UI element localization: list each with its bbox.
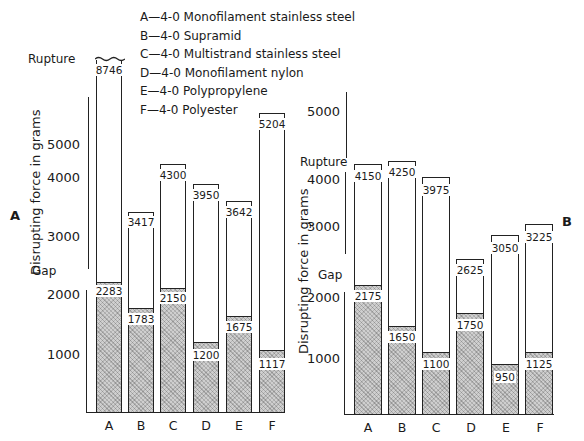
rupture-value: 4150 (354, 170, 383, 182)
wavy-break-icon (95, 56, 125, 62)
y-axis-upper-break-b (346, 92, 347, 158)
gap-segment: 1200 (193, 342, 220, 413)
gap-segment: 1750 (456, 313, 485, 415)
x-label-b: B (392, 420, 412, 435)
bar-a-right: 4150 2175 (354, 164, 382, 415)
bar-d-right: 2625 1750 (456, 259, 484, 415)
rupture-value: 3417 (127, 216, 156, 228)
gap-value: 2175 (354, 290, 383, 302)
x-label-e: E (496, 420, 516, 435)
gap-label-b: Gap (318, 268, 342, 282)
rupture-label-b: Rupture (300, 155, 347, 169)
x-label-d: D (196, 418, 216, 433)
legend-item-b: B—4-0 Supramid (140, 27, 355, 46)
bar-e-left: 3642 1675 (226, 201, 252, 413)
legend-item-c: C—4-0 Multistrand stainless steel (140, 45, 355, 64)
x-label-d: D (461, 420, 481, 435)
y-tick-5000-b: 5000 (280, 104, 340, 119)
gap-value: 2283 (95, 285, 124, 297)
gap-segment: 2175 (354, 285, 383, 415)
x-label-e: E (229, 418, 249, 433)
legend-item-a: A—4-0 Monofilament stainless steel (140, 8, 355, 27)
gap-value: 950 (494, 371, 516, 383)
legend: A—4-0 Monofilament stainless steel B—4-0… (140, 8, 355, 119)
bar-e-right: 3050 950 (491, 235, 519, 415)
gap-segment: 1650 (388, 326, 417, 415)
x-label-f: F (262, 418, 282, 433)
y-tick-1000-b: 1000 (280, 351, 340, 366)
rupture-value: 3975 (422, 184, 451, 196)
y-tick-5000-a: 5000 (20, 137, 80, 152)
rupture-value: 3950 (192, 189, 221, 201)
gap-value: 1125 (525, 358, 554, 370)
legend-item-d: D—4-0 Monofilament nylon (140, 64, 355, 83)
y-tick-4000-a: 4000 (20, 170, 80, 185)
gap-value: 1200 (192, 349, 221, 361)
rupture-value: 2625 (456, 264, 485, 276)
y-axis-lower-b (344, 292, 345, 415)
y-tick-3000-b: 3000 (280, 219, 340, 234)
y-axis-label-b: Disrupting force in grams (296, 189, 311, 354)
rupture-value: 5204 (258, 118, 287, 130)
bar-d-left: 3950 1200 (193, 184, 219, 413)
bar-c-right: 3975 1100 (422, 177, 450, 415)
y-tick-2000-b: 2000 (280, 290, 340, 305)
y-axis-lower-a (86, 290, 87, 413)
panel-label-a: A (10, 208, 20, 223)
bar-b-right: 4250 1650 (388, 161, 416, 415)
y-tick-1000-a: 1000 (20, 347, 80, 362)
y-tick-3000-a: 3000 (20, 229, 80, 244)
x-label-a: A (99, 418, 119, 433)
rupture-value: 3050 (491, 242, 520, 254)
y-tick-4000-b: 4000 (280, 172, 340, 187)
x-label-c: C (163, 418, 183, 433)
gap-segment: 1125 (525, 352, 554, 415)
gap-segment: 1675 (226, 316, 253, 413)
gap-value: 1750 (456, 319, 485, 331)
y-tick-2000-a: 2000 (20, 287, 80, 302)
gap-segment: 950 (491, 364, 520, 415)
rupture-value: 4300 (159, 169, 188, 181)
y-axis-label-a: Disrupting force in grams (28, 110, 43, 275)
gap-value: 2150 (159, 292, 188, 304)
rupture-value: 8746 (95, 64, 124, 76)
gap-value: 1100 (422, 358, 451, 370)
bar-b-left: 3417 1783 (128, 212, 154, 413)
x-label-b: B (131, 418, 151, 433)
y-axis-upper-a (88, 97, 89, 269)
gap-segment: 2283 (96, 282, 123, 413)
bar-c-left: 4300 2150 (160, 164, 186, 413)
bar-f-left: 5204 1117 (259, 113, 285, 413)
gap-value: 1783 (127, 313, 156, 325)
bar-f-right: 3225 1125 (525, 224, 553, 415)
gap-value: 1650 (388, 331, 417, 343)
gap-segment: 2150 (160, 288, 187, 413)
legend-item-e: E—4-0 Polypropylene (140, 82, 355, 101)
rupture-value: 4250 (388, 166, 417, 178)
x-label-c: C (426, 420, 446, 435)
x-label-a: A (358, 420, 378, 435)
bar-a-left: 8746 2283 (96, 60, 122, 413)
rupture-value: 3225 (525, 231, 554, 243)
gap-value: 1675 (225, 321, 254, 333)
gap-segment: 1100 (422, 352, 451, 415)
x-label-f: F (530, 420, 550, 435)
panel-label-b: B (562, 214, 572, 229)
gap-segment: 1783 (128, 308, 155, 413)
rupture-label-a: Rupture (28, 52, 75, 66)
gap-label-a: Gap (32, 264, 56, 278)
rupture-value: 3642 (225, 206, 254, 218)
y-axis-upper-b (345, 172, 346, 254)
